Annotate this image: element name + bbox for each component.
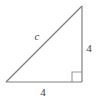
triangle-hypotenuse-side xyxy=(6,6,82,82)
vertical-leg-label: 4 xyxy=(86,43,92,54)
hypotenuse-label: c xyxy=(35,31,40,42)
right-triangle-figure: c 4 4 xyxy=(0,0,101,102)
right-angle-marker-icon xyxy=(72,72,82,82)
base-leg-label: 4 xyxy=(40,87,46,98)
